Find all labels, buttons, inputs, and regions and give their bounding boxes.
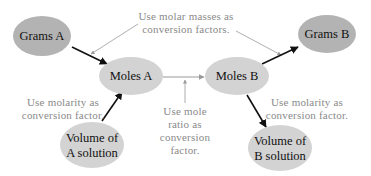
node-volume-a: Volume of A solution [60,122,124,168]
node-volume-b-label-line2: B solution [254,149,306,163]
note-molarity-a: Use molarity as conversion factor. [22,96,104,121]
note-molar-masses-line2: conversion factors. [142,23,230,35]
note-mole-ratio-line2: ratio as [168,118,202,130]
arrow-grams-a-to-moles-a [72,47,107,64]
node-moles-a: Moles A [99,57,163,95]
note-molarity-b: Use molarity as conversion factor. [266,96,348,121]
node-volume-b-label-line1: Volume of [254,134,307,148]
note-mole-ratio-line1: Use mole [163,105,206,117]
node-moles-a-label: Moles A [110,69,153,83]
arrow-moles-b-to-grams-b [262,47,298,64]
molar-mass-leader-right [236,31,281,55]
node-volume-b-shape [248,125,312,171]
stoichiometry-diagram: Grams A Moles A Moles B Grams B Volume o… [0,0,371,176]
note-molarity-b-line1: Use molarity as [271,96,343,108]
note-molarity-a-line2: conversion factor. [22,109,104,121]
node-volume-a-label-line1: Volume of [66,131,119,145]
node-grams-b: Grams B [298,15,356,53]
node-moles-b: Moles B [205,57,269,95]
arrow-moles-b-to-volume-b [247,95,266,127]
note-molar-masses: Use molar masses as conversion factors. [138,10,233,35]
note-mole-ratio-line4: factor. [170,144,199,156]
note-molar-masses-line1: Use molar masses as [138,10,233,22]
note-molarity-b-line2: conversion factor. [266,109,348,121]
note-mole-ratio-line3: conversion [160,131,211,143]
node-volume-a-label-line2: A solution [66,146,118,160]
note-mole-ratio: Use mole ratio as conversion factor. [160,105,211,156]
node-grams-a-label: Grams A [20,29,65,43]
arrow-volume-a-to-moles-a [102,92,122,121]
node-moles-b-label: Moles B [216,69,259,83]
molar-mass-leader-left [91,24,138,54]
node-volume-b: Volume of B solution [248,125,312,171]
node-grams-a: Grams A [13,16,71,56]
node-grams-b-label: Grams B [305,27,350,41]
note-molarity-a-line1: Use molarity as [27,96,99,108]
node-volume-a-shape [60,122,124,168]
